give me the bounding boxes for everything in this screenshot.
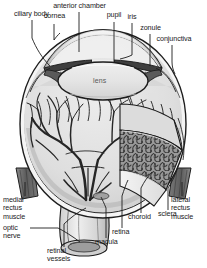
macula-shape — [93, 193, 109, 200]
label-iris: iris — [119, 13, 145, 21]
label-conjunctiva: conjunctiva — [146, 35, 202, 43]
label-lateral-rectus-muscle: lateral rectus muscle — [171, 196, 207, 221]
eye-anatomy-figure: anterior chamber cornea pupil iris zonul… — [0, 0, 207, 268]
label-optic-nerve: optic nerve — [3, 224, 35, 241]
label-zonule: zonule — [132, 24, 169, 32]
label-retina: retina — [112, 228, 145, 236]
label-ciliary-body: ciliary body — [2, 10, 61, 18]
label-medial-rectus-muscle: medial rectus muscle — [3, 196, 41, 221]
label-retinal-vessels: retinal vessels — [47, 247, 87, 264]
label-macula: macula — [95, 238, 133, 246]
label-lens: lens — [93, 77, 106, 84]
